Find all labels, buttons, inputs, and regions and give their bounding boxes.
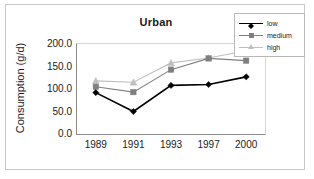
legend-swatch-diamond-icon xyxy=(238,18,264,29)
y-tick-label: 150.0 xyxy=(28,62,72,72)
data-point-medium-1989 xyxy=(93,84,98,89)
data-point-medium-1997 xyxy=(206,56,211,61)
data-point-medium-1993 xyxy=(168,67,173,72)
triangle-marker-icon xyxy=(248,44,254,49)
x-tick-label: 1997 xyxy=(189,139,229,150)
data-point-low-1989 xyxy=(93,90,99,96)
series-canvas xyxy=(77,44,265,134)
x-axis-tick-labels: 19891991199319972000 xyxy=(76,139,266,155)
legend-label: high xyxy=(264,44,280,51)
y-tick-label: 0.0 xyxy=(28,129,72,139)
chart-frame: Urban Consumption (g/d) 0.050.0100.0150.… xyxy=(5,4,305,170)
square-marker-icon xyxy=(249,33,254,38)
x-tick-label: 1991 xyxy=(113,139,153,150)
legend-item-low: low xyxy=(238,17,302,29)
diamond-marker-icon xyxy=(248,20,254,26)
data-point-medium-1991 xyxy=(131,89,136,94)
y-tick-label: 100.0 xyxy=(28,84,72,94)
chart-screenshot: Urban Consumption (g/d) 0.050.0100.0150.… xyxy=(0,0,314,179)
x-tick-label: 2000 xyxy=(226,139,266,150)
x-tick-label: 1989 xyxy=(76,139,116,150)
chart-legend: lowmediumhigh xyxy=(234,13,305,57)
y-tick-label: 200.0 xyxy=(28,39,72,49)
legend-swatch-triangle-icon xyxy=(238,42,264,53)
y-tick-label: 50.0 xyxy=(28,107,72,117)
data-point-low-1997 xyxy=(206,81,212,87)
legend-label: medium xyxy=(264,32,292,39)
legend-item-high: high xyxy=(238,41,302,53)
series-line-high xyxy=(96,51,246,83)
data-point-medium-2000 xyxy=(244,58,249,63)
y-axis-tick-labels: 0.050.0100.0150.0200.0 xyxy=(28,43,72,135)
legend-swatch-square-icon xyxy=(238,30,264,41)
y-axis-title: Consumption (g/d) xyxy=(14,33,26,143)
data-point-low-2000 xyxy=(243,74,249,80)
x-tick-label: 1993 xyxy=(151,139,191,150)
legend-label: low xyxy=(264,20,278,27)
legend-item-medium: medium xyxy=(238,29,302,41)
